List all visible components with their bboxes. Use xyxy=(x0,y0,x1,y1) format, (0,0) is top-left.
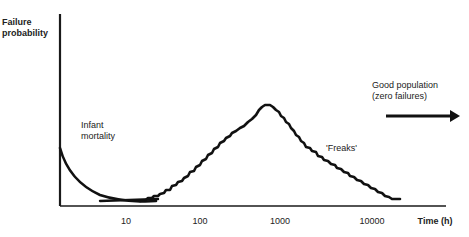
y-axis-label-line1: Failure xyxy=(2,17,48,28)
infant-mortality-label-line1: Infant xyxy=(81,120,115,131)
y-axis-label: Failure probability xyxy=(2,17,48,39)
freaks-label: 'Freaks' xyxy=(326,143,357,154)
x-tick-100: 100 xyxy=(192,216,207,226)
good-population-label-line1: Good population xyxy=(372,80,438,91)
chart-canvas xyxy=(0,0,469,237)
x-axis-label: Time (h) xyxy=(418,216,453,226)
infant-mortality-label: Infant mortality xyxy=(81,120,115,142)
infant-mortality-label-line2: mortality xyxy=(81,131,115,142)
infant-mortality-curve xyxy=(60,148,156,202)
good-population-label: Good population (zero failures) xyxy=(372,80,438,102)
x-tick-10: 10 xyxy=(121,216,131,226)
good-population-label-line2: (zero failures) xyxy=(372,91,438,102)
y-axis-label-line2: probability xyxy=(2,28,48,39)
good-population-arrow-head xyxy=(450,110,460,122)
freaks-curve xyxy=(140,105,400,201)
x-tick-1000: 1000 xyxy=(270,216,290,226)
x-tick-10000: 10000 xyxy=(359,216,384,226)
